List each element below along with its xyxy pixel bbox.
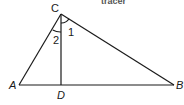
- segment-cb: [61, 14, 174, 85]
- point-a-label: A: [8, 79, 16, 91]
- point-d-label: D: [57, 89, 65, 101]
- header-fragment: tracer: [101, 0, 127, 6]
- triangle-diagram: tracer C A D B 1 2: [0, 0, 184, 105]
- angle-2-label: 2: [53, 34, 59, 46]
- angle-2-arc: [53, 30, 61, 32]
- angle-1-label: 1: [68, 26, 74, 38]
- point-b-label: B: [176, 79, 183, 91]
- segment-ca: [19, 14, 61, 85]
- point-c-label: C: [51, 2, 59, 14]
- angle-1-arc: [61, 19, 69, 23]
